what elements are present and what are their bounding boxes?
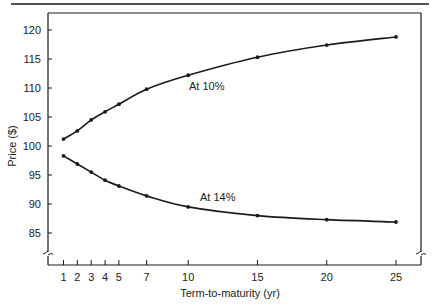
- x-axis-title: Term-to-maturity (yr): [180, 287, 280, 299]
- y-tick-label: 115: [23, 53, 41, 65]
- data-point-at-14: [256, 214, 260, 218]
- data-point-at-10: [325, 43, 329, 47]
- data-point-at-10: [103, 110, 107, 114]
- data-point-at-10: [75, 129, 79, 133]
- x-tick-label: 1: [60, 271, 66, 283]
- data-point-at-10: [117, 102, 121, 106]
- data-point-at-10: [394, 35, 398, 39]
- data-point-at-14: [325, 218, 329, 222]
- data-point-at-10: [186, 73, 190, 77]
- annotation-at-14: At 14%: [200, 191, 236, 203]
- x-tick-label: 15: [251, 271, 263, 283]
- data-point-at-10: [145, 87, 149, 91]
- x-tick-label: 3: [88, 271, 94, 283]
- series-line-at-14: [64, 156, 397, 222]
- data-point-at-14: [75, 162, 79, 166]
- y-axis-title: Price ($): [6, 125, 18, 167]
- data-point-at-14: [394, 220, 398, 224]
- x-axis: 12345710152025: [60, 260, 402, 283]
- right-axis-break: [416, 251, 426, 255]
- series-line-at-10: [64, 37, 397, 139]
- data-point-at-14: [186, 205, 190, 209]
- x-tick-label: 10: [182, 271, 194, 283]
- x-tick-label: 20: [321, 271, 333, 283]
- y-tick-label: 105: [23, 111, 41, 123]
- chart: 859095100105110115120 12345710152025 Pri…: [0, 0, 436, 306]
- data-point-at-14: [89, 170, 93, 174]
- data-point-at-14: [145, 194, 149, 198]
- data-point-at-14: [103, 178, 107, 182]
- y-tick-label: 90: [29, 198, 41, 210]
- data-point-at-14: [117, 184, 121, 188]
- data-point-at-10: [62, 137, 66, 141]
- data-point-at-10: [89, 118, 93, 122]
- x-tick-label: 5: [116, 271, 122, 283]
- x-tick-label: 4: [102, 271, 108, 283]
- data-point-at-14: [62, 154, 66, 158]
- y-tick-label: 120: [23, 24, 41, 36]
- left-axis-break: [43, 251, 53, 255]
- y-tick-label: 100: [23, 140, 41, 152]
- annotation-at-10: At 10%: [189, 80, 225, 92]
- plot-frame: [43, 13, 426, 265]
- y-tick-label: 85: [29, 227, 41, 239]
- data-point-at-10: [256, 55, 260, 59]
- x-tick-label: 2: [74, 271, 80, 283]
- x-tick-label: 7: [144, 271, 150, 283]
- y-tick-label: 110: [23, 82, 41, 94]
- x-tick-label: 25: [390, 271, 402, 283]
- y-tick-label: 95: [29, 169, 41, 181]
